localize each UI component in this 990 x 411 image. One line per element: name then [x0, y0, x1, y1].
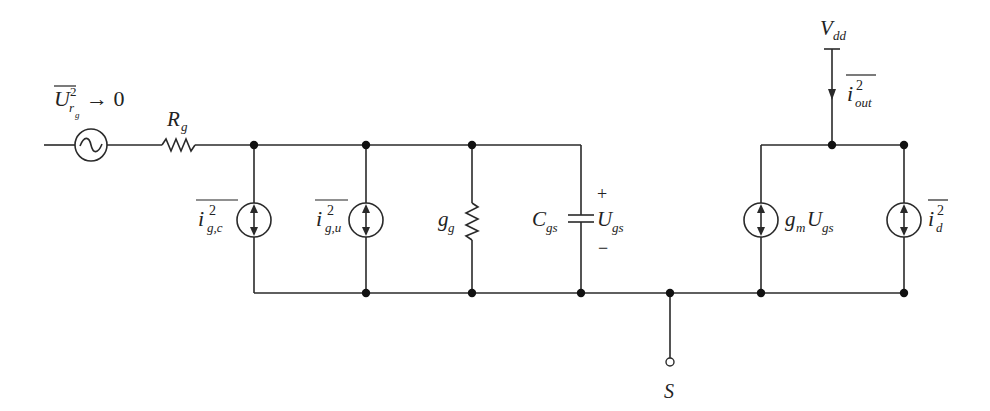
- source-terminal-label: S: [664, 380, 674, 402]
- svg-text:out: out: [855, 95, 872, 110]
- output-branch: [744, 49, 921, 293]
- source-voltage-label: U 2 r g → 0: [54, 84, 125, 120]
- source-terminal: [666, 293, 674, 366]
- svg-text:g: g: [438, 207, 449, 231]
- noise-source-gc: [237, 145, 271, 293]
- noise-gc-label: i 2 g,c: [196, 200, 238, 235]
- plus-sign: +: [597, 184, 607, 204]
- svg-text:dd: dd: [833, 28, 847, 43]
- svg-text:2: 2: [209, 203, 216, 218]
- svg-text:g,u: g,u: [325, 220, 342, 235]
- svg-text:i: i: [316, 206, 322, 231]
- conductance-gg-label: g g: [438, 207, 455, 235]
- svg-text:i: i: [198, 206, 204, 231]
- svg-text:gs: gs: [546, 220, 558, 235]
- drain-noise-label: i 2 d: [928, 200, 948, 235]
- input-branch: [44, 129, 581, 215]
- resistor-rg-label: R g: [166, 107, 188, 134]
- current-arrow-icon: [828, 89, 836, 100]
- voltage-ugs-label: + U gs −: [597, 184, 624, 258]
- label-relation: → 0: [86, 86, 125, 111]
- svg-text:g: g: [785, 207, 796, 231]
- dependent-current-source: [744, 145, 778, 293]
- ac-voltage-source-icon: [75, 129, 107, 161]
- minus-sign: −: [598, 238, 608, 258]
- svg-text:g: g: [181, 119, 188, 134]
- svg-text:d: d: [936, 220, 943, 235]
- svg-text:gs: gs: [822, 220, 834, 235]
- vdd-label: V dd: [820, 16, 847, 43]
- svg-text:2: 2: [327, 203, 334, 218]
- svg-text:m: m: [796, 220, 805, 235]
- noise-source-gu: [349, 145, 383, 293]
- svg-text:2: 2: [856, 78, 863, 93]
- svg-text:g,c: g,c: [207, 220, 223, 235]
- drain-noise-source: [887, 145, 921, 293]
- noise-gu-label: i 2 g,u: [315, 200, 348, 235]
- svg-text:i: i: [847, 81, 853, 106]
- label-sup: 2: [70, 84, 77, 99]
- conductance-gg: [466, 145, 478, 293]
- svg-text:gs: gs: [612, 220, 624, 235]
- dependent-source-label: g m U gs: [785, 207, 834, 235]
- svg-text:R: R: [166, 107, 180, 131]
- svg-text:2: 2: [937, 203, 944, 218]
- output-current-label: i 2 out: [846, 75, 876, 110]
- capacitor-cgs-icon: [568, 215, 594, 293]
- circuit-diagram: U 2 r g → 0 R g i 2 g,c i 2 g,u g g C gs…: [0, 0, 990, 411]
- resistor-rg-icon: [162, 139, 195, 151]
- svg-text:g: g: [448, 220, 455, 235]
- label-sub-g: g: [75, 110, 80, 120]
- svg-text:i: i: [928, 206, 934, 231]
- capacitor-cgs-label: C gs: [532, 207, 558, 235]
- svg-text:C: C: [532, 207, 547, 231]
